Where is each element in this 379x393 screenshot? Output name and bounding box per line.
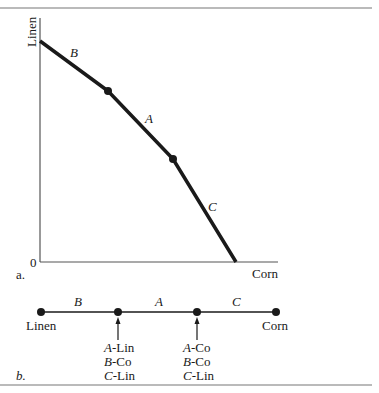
kink2-line-2: B-Co <box>183 354 210 369</box>
y-axis-label: Linen <box>24 16 39 47</box>
segment-label-a: A <box>144 111 153 126</box>
kink-point-b2 <box>193 308 201 316</box>
kink2-line-3: C-Lin <box>183 368 215 383</box>
arrow-head-icon <box>116 317 121 324</box>
right-end-label: Corn <box>262 318 289 333</box>
segment-label-b-a: A <box>154 294 163 309</box>
segment-label-b-c: C <box>232 294 241 309</box>
panel-b-label: b. <box>16 368 26 383</box>
kink-point-2 <box>169 155 177 163</box>
origin-label: 0 <box>30 255 37 270</box>
segment-label-c: C <box>208 199 217 214</box>
ppf-figure: Linen Corn 0 a. B A C B A C Linen Corn A… <box>0 0 379 393</box>
endpoint-linen <box>37 308 45 316</box>
x-axis-label: Corn <box>252 266 279 281</box>
kink-point-b1 <box>114 308 122 316</box>
kink1-line-3: C-Lin <box>104 368 136 383</box>
panel-a-label: a. <box>16 267 25 282</box>
kink-point-1 <box>104 87 112 95</box>
kink1-line-2: B-Co <box>104 354 131 369</box>
kink1-line-1: A-Lin <box>103 340 135 355</box>
segment-label-b-b: B <box>74 294 82 309</box>
endpoint-corn <box>272 308 280 316</box>
production-frontier <box>40 41 236 262</box>
segment-label-b: B <box>70 45 78 60</box>
arrow-head-icon <box>195 317 200 324</box>
kink2-line-1: A-Co <box>182 340 210 355</box>
left-end-label: Linen <box>26 318 57 333</box>
